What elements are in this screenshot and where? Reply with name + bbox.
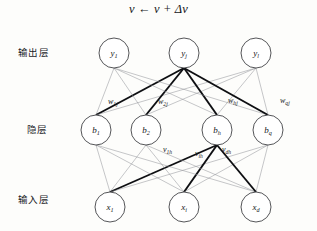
weight-label-wqj: wqj <box>280 96 290 106</box>
hidden-to-output-weight-labels: w1jw2jwhjwqj <box>108 96 290 107</box>
weight-label-vih: vih <box>195 149 203 159</box>
edge-hidden-to-output <box>114 68 268 115</box>
edges-hidden-to-output <box>96 68 268 115</box>
edge-hidden-to-output <box>96 68 114 115</box>
weight-label-w2j: w2j <box>158 97 168 107</box>
network-graph: y1yjyl b1b2bhbq x1xixd w1jw2jwhjwqj v1hv… <box>0 0 317 231</box>
edge-input-to-hidden <box>96 145 110 192</box>
edge-hidden-to-output <box>217 68 256 115</box>
edge-hidden-to-output <box>184 68 268 115</box>
weight-label-w1j: w1j <box>108 97 118 107</box>
input-layer-nodes: x1xixd <box>95 192 271 222</box>
edge-input-to-hidden <box>96 145 256 192</box>
edges-input-to-hidden <box>96 145 268 192</box>
hidden-layer-nodes: b1b2bhbq <box>81 115 283 145</box>
weight-label-vdh: vdh <box>222 145 231 155</box>
edge-hidden-to-output <box>96 68 256 115</box>
edge-input-to-hidden <box>256 145 268 192</box>
weight-label-v1h: v1h <box>163 145 172 155</box>
edge-hidden-to-output <box>96 68 184 115</box>
neural-network-diagram: ν ← ν + Δν 输出层 隐层 输入层 y1yjyl b1b2bhbq x1… <box>0 0 317 231</box>
edge-hidden-to-output <box>184 68 217 115</box>
edge-hidden-to-output <box>256 68 268 115</box>
output-layer-nodes: y1yjyl <box>99 38 271 68</box>
